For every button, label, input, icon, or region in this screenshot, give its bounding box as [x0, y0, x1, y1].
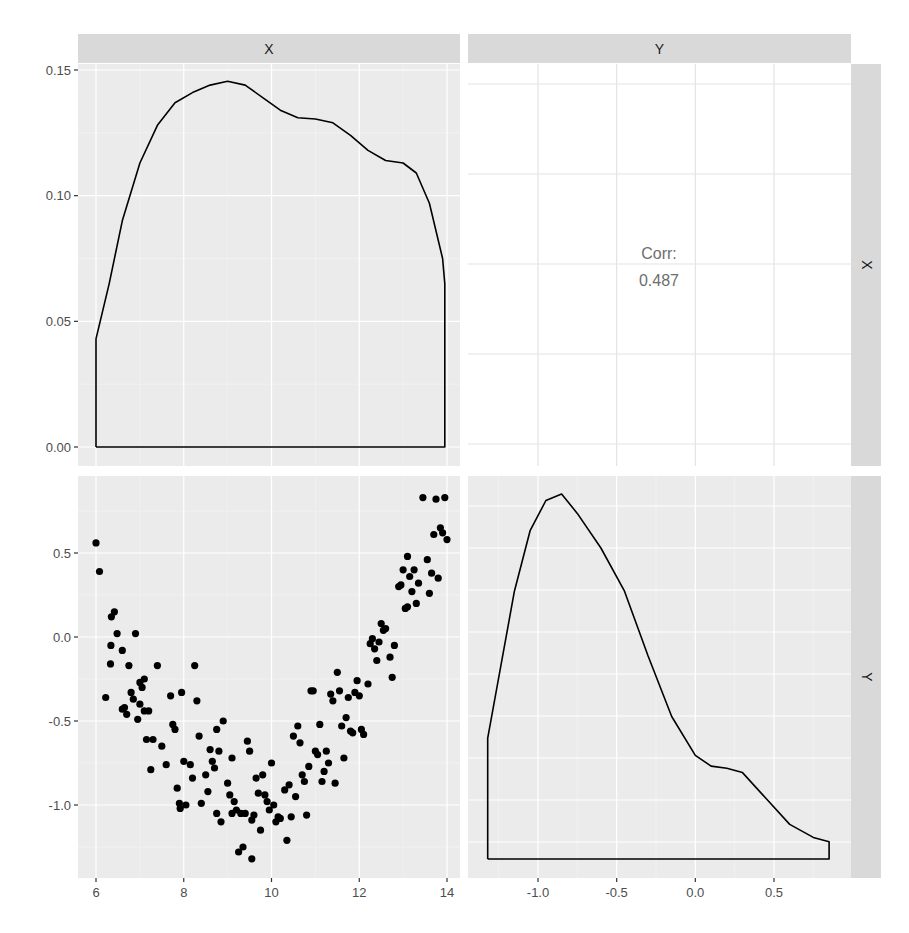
data-point — [343, 714, 350, 721]
data-point — [261, 791, 268, 798]
x-tick-label: 8 — [180, 885, 187, 900]
data-point — [443, 536, 450, 543]
data-point — [182, 801, 189, 808]
data-point — [432, 496, 439, 503]
data-point — [128, 689, 135, 696]
data-point — [305, 763, 312, 770]
data-point — [196, 733, 203, 740]
panel-density-y — [468, 476, 851, 878]
data-point — [139, 684, 146, 691]
y-tick-label: 0.05 — [46, 314, 71, 329]
data-point — [382, 625, 389, 632]
data-point — [360, 731, 367, 738]
data-point — [314, 751, 321, 758]
data-point — [134, 716, 141, 723]
x-tick-label: -1.0 — [527, 885, 549, 900]
data-point — [132, 630, 139, 637]
data-point — [338, 722, 345, 729]
data-point — [430, 531, 437, 538]
data-point — [226, 791, 233, 798]
data-point — [340, 754, 347, 761]
data-point — [121, 704, 128, 711]
y-tick-label: -0.5 — [49, 714, 71, 729]
data-point — [296, 739, 303, 746]
data-point — [290, 733, 297, 740]
panel-scatter-x-y — [78, 476, 460, 878]
data-point — [270, 801, 277, 808]
data-point — [310, 687, 317, 694]
data-point — [364, 680, 371, 687]
data-point — [332, 780, 339, 787]
y-tick-label: 0.15 — [46, 63, 71, 78]
data-point — [327, 691, 334, 698]
data-point — [404, 603, 411, 610]
data-point — [424, 556, 431, 563]
data-point — [189, 775, 196, 782]
data-point — [136, 701, 143, 708]
panel-density-x — [78, 64, 460, 466]
x-tick-label: 0.5 — [765, 885, 783, 900]
data-point — [207, 746, 214, 753]
data-point — [400, 566, 407, 573]
x-tick-label: 0.0 — [686, 885, 704, 900]
y-tick-label: 0.10 — [46, 188, 71, 203]
data-point — [283, 837, 290, 844]
data-point — [286, 781, 293, 788]
data-point — [259, 771, 266, 778]
data-point — [246, 748, 253, 755]
data-point — [213, 810, 220, 817]
data-point — [303, 812, 310, 819]
data-point — [435, 575, 442, 582]
data-point — [373, 657, 380, 664]
y-tick-label: 0.0 — [53, 630, 71, 645]
data-point — [145, 707, 152, 714]
strip-right-label: Y — [859, 672, 875, 682]
data-point — [248, 855, 255, 862]
data-point — [209, 758, 216, 765]
strip-top-label: X — [264, 41, 274, 57]
data-point — [224, 780, 231, 787]
data-point — [329, 697, 336, 704]
data-point — [158, 743, 165, 750]
data-point — [171, 726, 178, 733]
data-point — [149, 736, 156, 743]
data-point — [228, 754, 235, 761]
y-axis-density-x: 0.000.050.100.15 — [46, 63, 78, 455]
x-axis-x: 68101214 — [92, 878, 454, 900]
data-point — [257, 827, 264, 834]
data-point — [299, 771, 306, 778]
data-point — [239, 843, 246, 850]
data-point — [413, 600, 420, 607]
data-point — [294, 722, 301, 729]
data-point — [389, 674, 396, 681]
data-point — [242, 810, 249, 817]
data-point — [220, 717, 227, 724]
data-point — [211, 764, 218, 771]
data-point — [404, 553, 411, 560]
data-point — [119, 647, 126, 654]
x-tick-label: -0.5 — [605, 885, 627, 900]
data-point — [441, 494, 448, 501]
corr-label: Corr: — [641, 245, 677, 262]
data-point — [163, 761, 170, 768]
data-point — [288, 813, 295, 820]
panel-correlation — [468, 64, 851, 466]
data-point — [354, 677, 361, 684]
data-point — [204, 788, 211, 795]
data-point — [180, 758, 187, 765]
data-point — [111, 608, 118, 615]
strip-right-label: X — [859, 260, 875, 270]
data-point — [439, 529, 446, 536]
data-point — [336, 687, 343, 694]
data-point — [371, 645, 378, 652]
data-point — [408, 588, 415, 595]
data-point — [253, 775, 260, 782]
y-tick-label: 0.00 — [46, 440, 71, 455]
x-tick-label: 6 — [92, 885, 99, 900]
data-point — [386, 654, 393, 661]
data-point — [325, 759, 332, 766]
data-point — [250, 812, 257, 819]
data-point — [268, 759, 275, 766]
data-point — [323, 748, 330, 755]
data-point — [301, 778, 308, 785]
